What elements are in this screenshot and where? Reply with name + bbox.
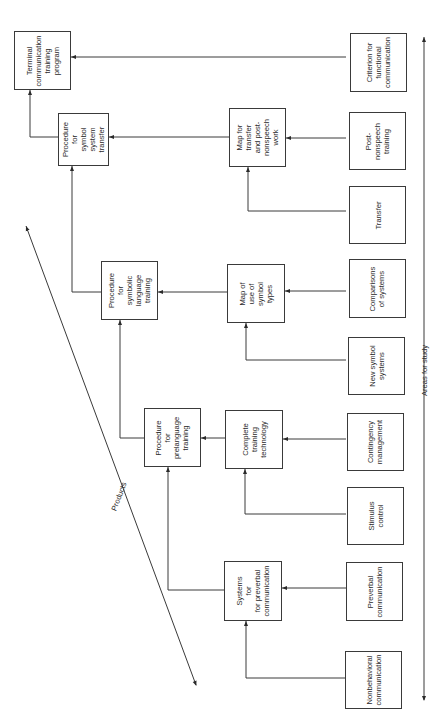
box-label: Procedure for symbol system transfer [61,122,106,157]
box-label: Nonbehavioral communication [364,654,382,705]
box-label: Post- nonspeech training [364,122,391,159]
box-label: Comparisons of systems [369,266,387,311]
box-label: Procedure for symbolic language training [107,273,152,308]
box-label: Contingency management [366,420,384,464]
flow-diagram: Terminal communication training program … [0,0,436,720]
area-box-preverbal: Preverbal communication [346,562,403,621]
area-box-stimulus: Stimulus control [347,487,404,545]
area-box-comparisons: Comparisons of systems [349,259,406,318]
box-label: Criterion for functional communication [365,37,392,88]
product-box-proc-prelanguage: Procedure for prelanguage training [144,408,201,467]
box-label: Map for transfer and post- nonspeech wor… [235,119,280,156]
box-label: Stimulus control [367,501,385,530]
area-box-contingency: Contingency management [347,413,404,471]
intermediate-box-map-symbol: Map of use of symbol types [227,264,285,323]
product-box-terminal: Terminal communication training program [14,31,71,90]
area-box-nonbehavioral: Nonbehavioral communication [345,651,402,709]
box-label: Complete training technology [240,421,267,458]
box-label: Systems for for preverbal communication [235,565,271,616]
box-label: Terminal communication training program [24,35,60,86]
intermediate-box-map-transfer: Map for transfer and post- nonspeech wor… [229,108,286,167]
box-label: Transfer [373,201,382,229]
areas-axis-label: Areas for study [420,345,429,396]
intermediate-box-complete-tech: Complete training technology [225,410,283,469]
box-label: Procedure for prelanguage training [154,416,190,458]
area-box-new-symbol: New symbol systems [348,337,405,395]
product-box-proc-transfer: Procedure for symbol system transfer [58,113,109,166]
box-label: Preverbal communication [365,566,383,617]
box-label: Map of use of symbol types [238,281,274,305]
product-box-proc-symbolic: Procedure for symbolic language training [101,261,158,320]
area-box-criterion: Criterion for functional communication [350,33,407,92]
area-box-post-nonspeech: Post- nonspeech training [349,112,406,170]
box-label: New symbol systems [367,345,385,386]
area-box-transfer: Transfer [349,186,406,244]
product-box-systems-preverbal: Systems for for preverbal communication [224,561,282,621]
